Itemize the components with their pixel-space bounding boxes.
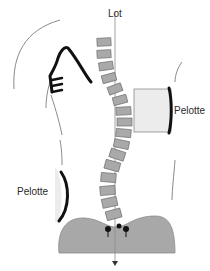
torso-outline-right	[175, 62, 182, 82]
scoliosis-diagram	[0, 0, 210, 271]
vertebra	[109, 148, 126, 161]
torso-outline-left-lower	[60, 140, 62, 165]
vertebra	[117, 118, 132, 126]
arm-line-lower	[51, 95, 62, 135]
pad-right-label: Pelotte	[174, 106, 205, 116]
vertebra	[100, 185, 116, 195]
pelvis	[59, 216, 175, 253]
vertebra	[99, 61, 114, 71]
brace-strap-1	[52, 78, 62, 80]
spine	[97, 38, 132, 221]
vertebra	[97, 38, 111, 47]
vertebra	[112, 94, 128, 105]
pad-right-area	[134, 89, 171, 132]
torso-outline-right-lower	[172, 160, 175, 200]
vertebra	[116, 128, 132, 137]
vertebra	[105, 208, 122, 221]
vertebra	[116, 107, 131, 116]
pad-left-label: Pelotte	[17, 187, 48, 197]
plumb-line-label: Lot	[108, 9, 122, 19]
vertebra	[101, 72, 117, 83]
vertebra	[104, 159, 121, 172]
vertebra	[107, 83, 123, 95]
vertebra	[101, 172, 117, 182]
brace-strap-2	[52, 84, 62, 86]
brace-strap-3	[52, 90, 62, 92]
vertebra	[97, 50, 111, 59]
plumb-arrow-icon	[112, 261, 118, 266]
landmark-center	[117, 224, 122, 229]
vertebra	[113, 139, 129, 150]
pad-left-area	[55, 167, 62, 222]
arm-line	[46, 82, 50, 108]
